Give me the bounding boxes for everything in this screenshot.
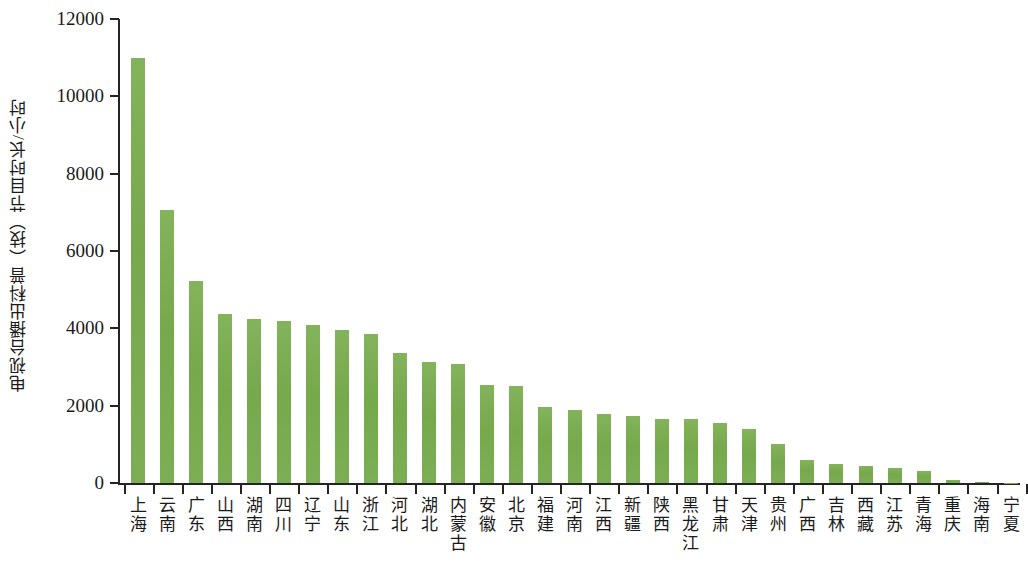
x-axis-label-char: 北 [414, 515, 444, 534]
x-tick-mark [822, 484, 824, 494]
x-axis-label-char: 内 [443, 496, 473, 515]
x-tick-mark [502, 484, 504, 494]
x-tick-mark [269, 484, 271, 494]
bar [509, 386, 523, 483]
x-tick-mark [415, 484, 417, 494]
x-axis-label-char: 浙 [356, 496, 386, 515]
x-axis-label-char: 宁 [996, 496, 1026, 515]
x-axis-label: 贵州 [763, 496, 793, 534]
x-axis-label: 西藏 [851, 496, 881, 534]
x-tick-mark [938, 484, 940, 494]
bar [771, 444, 785, 483]
x-tick-mark [618, 484, 620, 494]
x-axis-label-char: 甘 [705, 496, 735, 515]
bar [859, 466, 873, 483]
x-tick-mark [880, 484, 882, 494]
x-axis-label: 新疆 [618, 496, 648, 534]
bar [218, 314, 232, 483]
x-axis-label-char: 海 [123, 515, 153, 534]
x-axis-label-char: 广 [181, 496, 211, 515]
x-axis-label-char: 四 [269, 496, 299, 515]
x-axis-label-char: 湖 [239, 496, 269, 515]
bar [422, 362, 436, 483]
bar [597, 414, 611, 483]
x-axis-label: 甘肃 [705, 496, 735, 534]
x-tick-mark [589, 484, 591, 494]
x-axis-label-char: 古 [443, 534, 473, 553]
x-axis-label-char: 江 [356, 515, 386, 534]
x-tick-mark [473, 484, 475, 494]
y-tick-label-text: 12000 [0, 9, 104, 28]
x-tick-mark [735, 484, 737, 494]
x-axis-label: 河南 [560, 496, 590, 534]
bar [277, 321, 291, 483]
x-axis-label-char: 藏 [851, 515, 881, 534]
x-axis-label-char: 东 [181, 515, 211, 534]
x-tick-mark [997, 484, 999, 494]
bar [742, 429, 756, 483]
bar [335, 330, 349, 483]
x-axis-label-char: 广 [792, 496, 822, 515]
x-axis-label: 广西 [792, 496, 822, 534]
x-axis-label-char: 南 [560, 515, 590, 534]
x-axis-label-char: 蒙 [443, 515, 473, 534]
x-axis-label-char: 江 [676, 534, 706, 553]
bar [480, 385, 494, 483]
y-tick-label: 12000 [0, 9, 104, 29]
x-axis-label-char: 建 [530, 515, 560, 534]
x-tick-mark [385, 484, 387, 494]
bar [160, 210, 174, 483]
bar [451, 364, 465, 483]
bar [364, 334, 378, 483]
x-axis-label-char: 南 [239, 515, 269, 534]
x-axis-label-char: 重 [938, 496, 968, 515]
x-axis-label-char: 海 [909, 515, 939, 534]
x-axis-label-char: 吉 [821, 496, 851, 515]
x-axis-label-char: 陕 [647, 496, 677, 515]
bar [626, 416, 640, 483]
x-axis-label-char: 苏 [880, 515, 910, 534]
x-tick-mark [298, 484, 300, 494]
x-axis-label-char: 贵 [763, 496, 793, 515]
y-tick-label-text: 0 [0, 473, 104, 492]
x-axis-label: 安徽 [472, 496, 502, 534]
y-tick-label: 2000 [0, 396, 104, 416]
x-axis-label-char: 川 [269, 515, 299, 534]
x-axis-label-char: 山 [327, 496, 357, 515]
x-axis-label-char: 林 [821, 515, 851, 534]
x-axis-label-char: 津 [734, 515, 764, 534]
x-axis-label-char: 海 [967, 496, 997, 515]
y-tick-label: 0 [0, 473, 104, 493]
bars-container [118, 19, 1020, 483]
y-tick-label: 6000 [0, 241, 104, 261]
y-tick-label: 8000 [0, 164, 104, 184]
y-tick-label-text: 6000 [0, 241, 104, 260]
bar [131, 58, 145, 483]
x-axis-label-char: 天 [734, 496, 764, 515]
x-axis-label-char: 宁 [298, 515, 328, 534]
x-axis-label: 陕西 [647, 496, 677, 534]
x-tick-mark [647, 484, 649, 494]
x-axis-label-char: 辽 [298, 496, 328, 515]
x-axis-label-char: 南 [152, 515, 182, 534]
x-axis-label: 广东 [181, 496, 211, 534]
x-axis-label: 江西 [589, 496, 619, 534]
x-axis-label-char: 西 [210, 515, 240, 534]
x-axis-label: 黑龙江 [676, 496, 706, 553]
x-tick-mark [560, 484, 562, 494]
x-axis-label-char: 州 [763, 515, 793, 534]
bar [713, 423, 727, 483]
x-axis-label: 山西 [210, 496, 240, 534]
x-axis-label-char: 龙 [676, 515, 706, 534]
x-axis-label-char: 夏 [996, 515, 1026, 534]
x-tick-mark [706, 484, 708, 494]
y-tick-label: 10000 [0, 86, 104, 106]
x-axis-label-char: 南 [967, 515, 997, 534]
x-tick-mark [851, 484, 853, 494]
bar [247, 319, 261, 483]
x-tick-mark [909, 484, 911, 494]
x-axis-line [118, 483, 1020, 485]
x-tick-mark [676, 484, 678, 494]
bar [655, 419, 669, 483]
x-axis-label-char: 河 [385, 496, 415, 515]
